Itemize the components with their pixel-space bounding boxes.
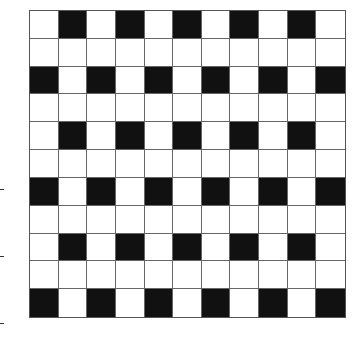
empty-cell [259,94,288,122]
empty-cell [288,261,317,289]
empty-cell [59,178,88,206]
empty-cell [230,261,259,289]
empty-cell [87,261,116,289]
empty-cell [30,150,59,178]
empty-cell [230,178,259,206]
empty-cell [87,150,116,178]
filled-cell [30,67,59,95]
empty-cell [316,11,345,39]
empty-cell [230,206,259,234]
filled-cell [145,178,174,206]
empty-cell [316,261,345,289]
empty-cell [259,11,288,39]
checker-grid [29,10,346,318]
empty-cell [145,39,174,67]
empty-cell [316,94,345,122]
empty-cell [173,94,202,122]
empty-cell [288,39,317,67]
empty-cell [173,150,202,178]
empty-cell [316,39,345,67]
filled-cell [59,234,88,262]
empty-cell [288,150,317,178]
filled-cell [316,289,345,317]
empty-cell [202,234,231,262]
empty-cell [116,39,145,67]
filled-cell [316,178,345,206]
empty-cell [259,234,288,262]
filled-cell [87,289,116,317]
empty-cell [87,11,116,39]
filled-cell [116,122,145,150]
empty-cell [259,39,288,67]
filled-cell [259,178,288,206]
empty-cell [173,67,202,95]
empty-cell [316,234,345,262]
filled-cell [259,67,288,95]
empty-cell [87,122,116,150]
empty-cell [116,67,145,95]
empty-cell [202,206,231,234]
empty-cell [87,234,116,262]
empty-cell [259,150,288,178]
empty-cell [202,150,231,178]
empty-cell [230,67,259,95]
empty-cell [116,206,145,234]
empty-cell [145,206,174,234]
filled-cell [59,11,88,39]
filled-cell [87,178,116,206]
filled-cell [288,11,317,39]
filled-cell [30,289,59,317]
empty-cell [59,150,88,178]
empty-cell [230,39,259,67]
filled-cell [230,234,259,262]
filled-cell [173,234,202,262]
empty-cell [30,94,59,122]
empty-cell [202,122,231,150]
tick-mark [0,256,4,257]
empty-cell [116,178,145,206]
empty-cell [59,289,88,317]
empty-cell [59,261,88,289]
empty-cell [202,261,231,289]
filled-cell [202,289,231,317]
empty-cell [145,234,174,262]
empty-cell [316,206,345,234]
filled-cell [288,122,317,150]
empty-cell [30,11,59,39]
empty-cell [316,150,345,178]
empty-cell [230,289,259,317]
empty-cell [259,206,288,234]
filled-cell [30,178,59,206]
empty-cell [173,178,202,206]
empty-cell [116,289,145,317]
empty-cell [116,94,145,122]
empty-cell [30,234,59,262]
empty-cell [30,122,59,150]
empty-cell [259,122,288,150]
empty-cell [145,94,174,122]
empty-cell [202,11,231,39]
filled-cell [145,67,174,95]
empty-cell [87,39,116,67]
empty-cell [288,94,317,122]
empty-cell [30,39,59,67]
empty-cell [116,150,145,178]
empty-cell [87,206,116,234]
filled-cell [145,289,174,317]
empty-cell [288,206,317,234]
filled-cell [202,67,231,95]
empty-cell [59,39,88,67]
filled-cell [173,11,202,39]
empty-cell [173,206,202,234]
empty-cell [87,94,116,122]
empty-cell [30,261,59,289]
empty-cell [59,67,88,95]
empty-cell [145,261,174,289]
filled-cell [230,11,259,39]
empty-cell [316,122,345,150]
empty-cell [230,94,259,122]
empty-cell [173,289,202,317]
empty-cell [173,261,202,289]
empty-cell [230,150,259,178]
filled-cell [116,234,145,262]
